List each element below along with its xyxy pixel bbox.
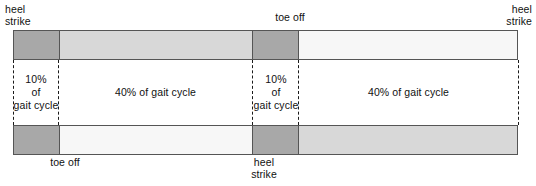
bar-segment-swing (298, 31, 517, 59)
bar-segment-stance-double-support-2 (252, 31, 298, 59)
right-limb-gait-bar (13, 30, 518, 60)
event-label-heel-strike-top-right: heel strike (466, 3, 532, 27)
bar-segment-stance-single-support (59, 31, 252, 59)
bar-segment-stance-double-support-1 (14, 31, 59, 59)
event-label-heel-strike-top-left: heel strike (5, 3, 65, 27)
event-label-toe-off-top: toe off (255, 11, 325, 23)
phase-annotation-double-support-right: 10% of gait cycle (253, 73, 299, 112)
event-label-heel-strike-bottom: heel strike (228, 156, 300, 180)
phase-annotation-single-support-left: 40% of gait cycle (59, 86, 252, 99)
event-label-toe-off-bottom: toe off (32, 156, 98, 168)
guide-line-heel-strike-end (518, 60, 519, 125)
gait-cycle-diagram: heel strike toe off heel strike 10% of g… (0, 0, 536, 186)
bar-segment-stance-double-support-1 (14, 126, 59, 154)
left-limb-gait-bar (13, 125, 518, 155)
phase-annotation-single-support-right: 40% of gait cycle (299, 86, 518, 99)
bar-segment-stance-double-support-2 (252, 126, 298, 154)
phase-annotation-double-support-left: 10% of gait cycle (13, 73, 59, 112)
bar-segment-stance-single-support (298, 126, 517, 154)
bar-segment-swing (59, 126, 252, 154)
